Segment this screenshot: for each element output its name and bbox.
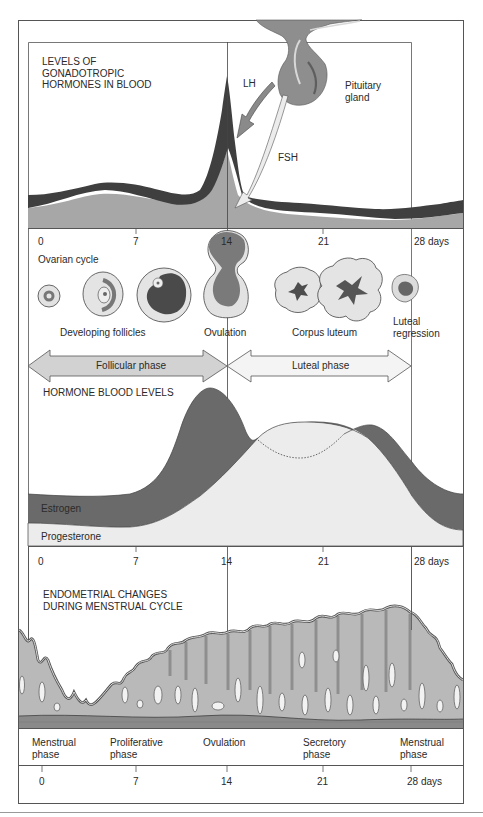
top-axis-tick-0: 0 bbox=[38, 236, 44, 247]
phase-proliferative: Proliferative phase bbox=[110, 737, 163, 760]
fsh-label: FSH bbox=[278, 152, 298, 163]
bottom-axis-tick-7: 7 bbox=[133, 776, 139, 787]
mid-axis-tick-14: 14 bbox=[221, 556, 232, 567]
corpus-luteum-icon bbox=[275, 267, 322, 312]
luteal-phase-label: Luteal phase bbox=[292, 360, 349, 371]
bottom-axis-tick-14: 14 bbox=[221, 776, 232, 787]
ovulation-label: Ovulation bbox=[204, 327, 246, 338]
gonadotropic-title: LEVELS OF GONADOTROPIC HORMONES IN BLOOD bbox=[42, 56, 151, 91]
luteal-regression-label: Luteal regression bbox=[393, 316, 440, 339]
vesicular-follicle-icon bbox=[137, 268, 191, 322]
bottom-axis-tick-0: 0 bbox=[39, 776, 45, 787]
endometrial-title: ENDOMETRIAL CHANGES DURING MENSTRUAL CYC… bbox=[43, 589, 183, 612]
phase-menstrual-start: Menstrual phase bbox=[32, 737, 76, 760]
primordial-follicle-icon bbox=[38, 285, 60, 307]
mid-axis-tick-21: 21 bbox=[318, 556, 329, 567]
lh-label: LH bbox=[243, 78, 256, 89]
ovarian-cycle-title: Ovarian cycle bbox=[38, 254, 99, 265]
corpus-luteum-label: Corpus luteum bbox=[292, 327, 357, 338]
secondary-follicle-icon bbox=[83, 272, 123, 316]
mid-axis-tick-0: 0 bbox=[38, 556, 44, 567]
follicular-phase-label: Follicular phase bbox=[96, 360, 166, 371]
top-axis-tick-21: 21 bbox=[318, 236, 329, 247]
top-axis-tick-28: 28 days bbox=[414, 236, 449, 247]
progesterone-label: Progesterone bbox=[41, 531, 101, 542]
estrogen-label: Estrogen bbox=[41, 503, 81, 514]
mid-axis-tick-28: 28 days bbox=[414, 556, 449, 567]
corpus-luteum-large-icon bbox=[318, 258, 383, 321]
phase-secretory: Secretory phase bbox=[303, 737, 346, 760]
bottom-axis-tick-21: 21 bbox=[317, 776, 328, 787]
developing-follicles-label: Developing follicles bbox=[60, 327, 146, 338]
menstrual-cycle-diagram bbox=[0, 0, 483, 817]
top-axis-tick-7: 7 bbox=[133, 236, 139, 247]
top-axis-tick-14: 14 bbox=[221, 236, 232, 247]
pituitary-label: Pituitary gland bbox=[345, 80, 381, 103]
phase-menstrual-end: Menstrual phase bbox=[400, 737, 444, 760]
phase-ovulation: Ovulation bbox=[203, 737, 245, 749]
mid-axis-tick-7: 7 bbox=[133, 556, 139, 567]
hormone-levels-title: HORMONE BLOOD LEVELS bbox=[43, 387, 174, 398]
bottom-axis-tick-28: 28 days bbox=[407, 776, 442, 787]
